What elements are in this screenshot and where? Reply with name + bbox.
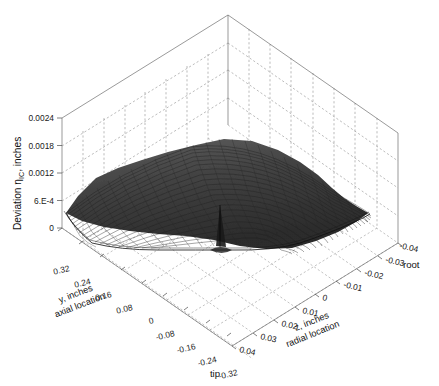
y-tick-0: 0.04 bbox=[239, 344, 257, 357]
z-axis-title: Deviation ηIC, inches bbox=[12, 137, 26, 230]
x-tick-3: 0.08 bbox=[115, 302, 133, 315]
y-tick-5: -0.01 bbox=[343, 279, 364, 293]
z-tick-3: 0.0018 bbox=[28, 141, 54, 151]
x-tick-0: 0.32 bbox=[52, 263, 70, 276]
x-tick-5: -0.08 bbox=[155, 328, 176, 342]
y-tick-8: -0.04 bbox=[399, 240, 420, 254]
y-tick-6: -0.02 bbox=[364, 267, 385, 281]
z-tick-4: 0.0024 bbox=[28, 113, 54, 123]
z-title-units: , inches bbox=[12, 137, 23, 172]
x-tick-4: 0 bbox=[148, 315, 155, 326]
plot-svg: 0 6.E-4 0.0012 0.0018 0.0024 Deviation η… bbox=[0, 0, 439, 386]
end-label-tip: tip bbox=[210, 368, 220, 379]
y-tick-1: 0.03 bbox=[260, 331, 278, 344]
z-tick-1: 6.E-4 bbox=[34, 196, 54, 206]
svg-text:Deviation ηIC, inches: Deviation ηIC, inches bbox=[12, 137, 26, 230]
y-tick-4: 0 bbox=[322, 292, 329, 303]
deviation-surface-mesh bbox=[64, 139, 371, 254]
z-tick-2: 0.0012 bbox=[28, 168, 54, 178]
y-axis: 0.04 0.03 0.02 0.01 0 -0.01 -0.02 -0.03 … bbox=[232, 240, 420, 357]
x-tick-6: -0.16 bbox=[176, 341, 197, 355]
surface-plot-figure: 0 6.E-4 0.0012 0.0018 0.0024 Deviation η… bbox=[0, 0, 439, 386]
end-label-root: root bbox=[403, 259, 420, 270]
z-axis: 0 6.E-4 0.0012 0.0018 0.0024 bbox=[28, 113, 62, 233]
z-title-subscript: IC bbox=[17, 172, 26, 179]
z-tick-0: 0 bbox=[49, 223, 54, 233]
z-title-main: Deviation bbox=[12, 188, 23, 230]
x-tick-7: -0.24 bbox=[197, 354, 218, 368]
x-tick-8: -0.32 bbox=[218, 367, 239, 381]
